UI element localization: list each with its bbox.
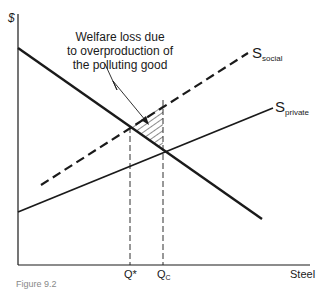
q-c-label-main: Q: [157, 268, 166, 280]
y-axis-label: $: [8, 11, 15, 25]
supply-private-label: Sprivate: [275, 98, 309, 117]
supply-social-label: Ssocial: [252, 44, 282, 63]
supply-private-label-main: S: [275, 98, 285, 115]
welfare-loss-area: [130, 104, 163, 151]
q-c-label-sub: C: [166, 274, 171, 281]
annotation-line-1: Welfare loss due: [64, 30, 176, 44]
x-axis-label: Steel: [290, 268, 315, 280]
q-star-label: Q*: [124, 268, 137, 280]
demand-curve: [18, 48, 262, 219]
figure-caption: Figure 9.2: [16, 279, 57, 289]
q-c-label: QC: [157, 268, 171, 281]
welfare-loss-annotation: Welfare loss due to overproduction of th…: [64, 30, 176, 72]
supply-social-label-main: S: [252, 44, 262, 61]
supply-social-label-sub: social: [262, 54, 282, 63]
supply-private-label-sub: private: [285, 108, 309, 117]
annotation-line-3: the polluting good: [64, 58, 176, 72]
annotation-line-2: to overproduction of: [64, 44, 176, 58]
